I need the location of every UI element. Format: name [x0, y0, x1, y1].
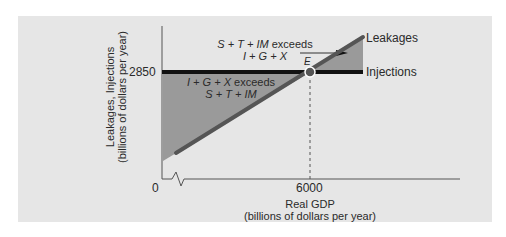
- left-region-verb: exceeds: [231, 76, 275, 88]
- y-tick-2850: 2850: [129, 66, 156, 78]
- left-region-rhs: S + T + IM: [205, 88, 256, 100]
- right-region-rhs: I + G + X: [243, 50, 287, 62]
- right-region-verb: exceeds: [269, 38, 313, 50]
- y-axis-title-main: Leakages, Injections: [104, 22, 116, 172]
- left-region-label: I + G + X exceeds S + T + IM: [172, 76, 290, 100]
- leakages-label: Leakages: [366, 32, 418, 44]
- x-axis-subtitle: (billions of dollars per year): [200, 210, 420, 222]
- injections-label: Injections: [366, 66, 417, 78]
- y-axis-title: Leakages, Injections (billions of dollar…: [104, 22, 128, 172]
- right-region-lhs: S + T + IM: [217, 38, 268, 50]
- left-region-lhs: I + G + X: [187, 76, 231, 88]
- x-origin-label: 0: [152, 182, 159, 194]
- equilibrium-point: [305, 67, 315, 77]
- right-region-label: S + T + IM exceeds I + G + X: [200, 38, 330, 62]
- y-axis-title-sub: (billions of dollars per year): [116, 22, 128, 172]
- x-axis-title: Real GDP: [245, 198, 375, 210]
- x-tick-6000: 6000: [296, 182, 323, 194]
